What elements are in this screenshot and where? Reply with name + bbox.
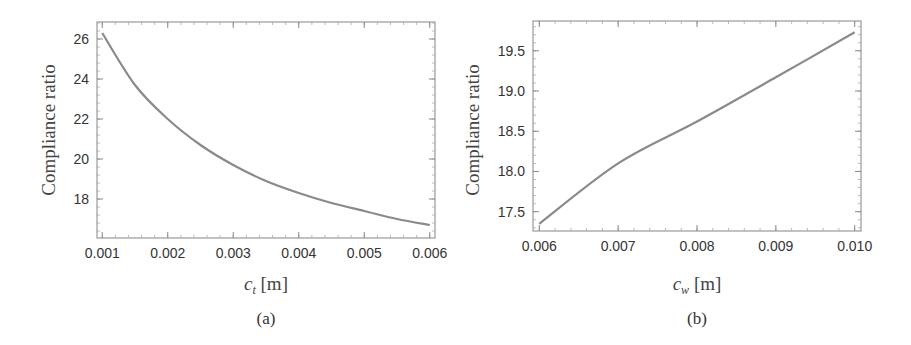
x-tick-label: 0.006: [522, 238, 557, 254]
y-tick-label: 20: [73, 151, 89, 167]
y-tick-label: 19.0: [498, 83, 525, 99]
y-tick-label: 18.0: [498, 163, 525, 179]
x-tick-label: 0.001: [85, 245, 120, 261]
y-tick-label: 24: [73, 71, 89, 87]
x-tick-label: 0.002: [150, 245, 185, 261]
x-tick-label: 0.008: [679, 238, 714, 254]
x-tick-label: 0.004: [281, 245, 316, 261]
x-tick-label: 0.003: [216, 245, 251, 261]
y-tick-label: 26: [73, 31, 89, 47]
x-axis-title-a: ct [m]: [244, 273, 288, 297]
y-tick-label: 18: [73, 191, 89, 207]
plot-frame-a: [97, 22, 435, 238]
x-tick-label: 0.007: [601, 238, 636, 254]
chart-a-svg: 0.0010.0020.0030.0040.0050.006 182022242…: [0, 0, 455, 345]
x-axis-title-b: cw [m]: [673, 273, 722, 297]
plot-frame-b: [533, 21, 861, 231]
y-tick-label: 22: [73, 111, 89, 127]
x-ticks-a: 0.0010.0020.0030.0040.0050.006: [85, 22, 448, 261]
x-tick-label: 0.009: [758, 238, 793, 254]
plot-area-border: [97, 22, 435, 238]
plot-area-border: [533, 21, 861, 231]
x-ticks-b: 0.0060.0070.0080.0090.010: [522, 21, 873, 254]
caption-b: (b): [687, 309, 707, 328]
x-tick-label: 0.006: [412, 245, 447, 261]
y-ticks-a: 1820222426: [73, 31, 435, 207]
y-axis-title-b: Compliance ratio: [462, 64, 483, 195]
y-tick-label: 18.5: [498, 123, 525, 139]
y-tick-label: 19.5: [498, 43, 525, 59]
data-line-b: [539, 32, 854, 223]
y-axis-title-a: Compliance ratio: [38, 64, 59, 195]
x-tick-label: 0.005: [347, 245, 382, 261]
chart-panel-a: 0.0010.0020.0030.0040.0050.006 182022242…: [0, 0, 455, 345]
data-line-a: [102, 33, 430, 225]
chart-panel-b: 0.0060.0070.0080.0090.010 17.518.018.519…: [455, 0, 911, 345]
x-tick-label: 0.010: [837, 238, 872, 254]
y-tick-label: 17.5: [498, 204, 525, 220]
caption-a: (a): [257, 309, 276, 328]
chart-b-svg: 0.0060.0070.0080.0090.010 17.518.018.519…: [455, 0, 911, 345]
